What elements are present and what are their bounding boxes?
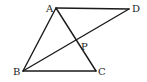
- segments-group: [23, 8, 129, 71]
- vertex-label-b: B: [13, 66, 20, 77]
- geometry-diagram: ABCDP: [0, 0, 147, 82]
- vertex-label-a: A: [45, 3, 54, 14]
- vertex-label-p: P: [81, 41, 88, 52]
- segment-ad: [56, 8, 129, 9]
- vertex-label-d: D: [132, 3, 140, 14]
- vertex-label-c: C: [98, 66, 106, 77]
